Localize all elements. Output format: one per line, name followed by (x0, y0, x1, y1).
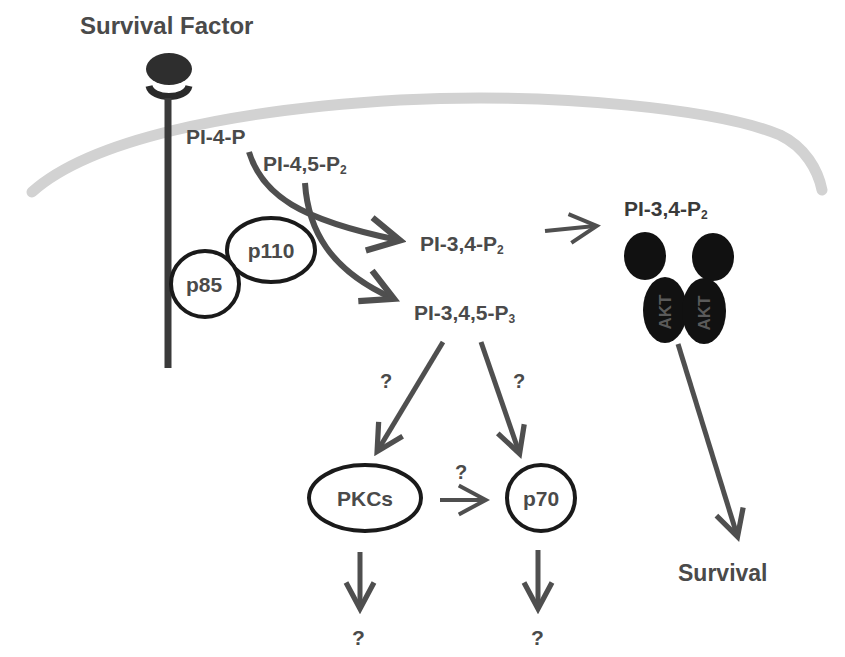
ph-domain-right (692, 233, 734, 281)
arrow-pi345p3-to-pkcs (378, 342, 443, 450)
unknown-pkcs-to-p70: ? (455, 461, 467, 483)
survival-factor-label: Survival Factor (80, 12, 253, 39)
pi34p2-akt-label: PI-3,4-P2 (624, 197, 708, 222)
pkcs-label: PKCs (337, 487, 393, 510)
p85-label: p85 (186, 273, 223, 296)
akt-left-label: AKT (656, 294, 675, 330)
arrow-pi45p2-to-pi345p3 (305, 183, 392, 298)
survival-label: Survival (678, 560, 768, 586)
receptor-cup-icon (149, 86, 189, 97)
unknown-to-p70: ? (513, 370, 525, 392)
akt-complex[interactable]: AKT AKT (624, 232, 734, 344)
unknown-to-pkcs: ? (380, 370, 392, 392)
pi345p3-label: PI-3,4,5-P3 (414, 301, 516, 326)
unknown-p70-down: ? (531, 626, 544, 649)
pi3k-akt-signaling-diagram: Survival Factor PI-4-P PI-4,5-P2 p110 p8… (0, 0, 845, 657)
cell-membrane (32, 98, 822, 192)
arrow-pi34p2-to-akt (545, 226, 595, 231)
ph-domain-left (624, 232, 666, 280)
pi4p-label: PI-4-P (186, 125, 246, 148)
arrow-pi345p3-to-p70 (481, 342, 519, 452)
p70-label: p70 (523, 487, 559, 510)
akt-right-label: AKT (695, 295, 714, 331)
arrow-akt-to-survival (678, 344, 737, 535)
ligand-icon (146, 53, 192, 85)
p110-label: p110 (248, 239, 295, 262)
unknown-pkcs-down: ? (352, 626, 365, 649)
pi45p2-label: PI-4,5-P2 (263, 152, 347, 177)
pi34p2-label: PI-3,4-P2 (420, 232, 504, 257)
